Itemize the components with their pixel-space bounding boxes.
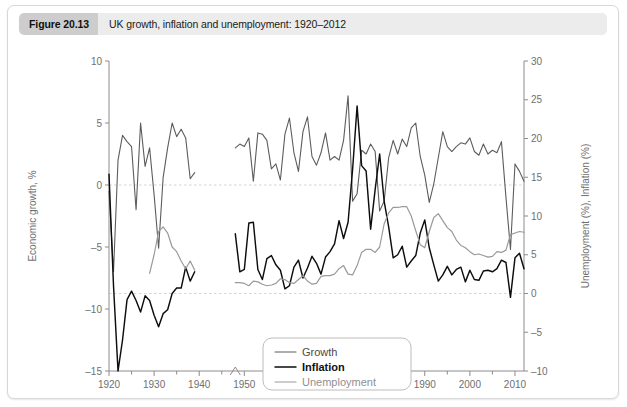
x-tick-label: 1940 (188, 379, 211, 390)
y-axis-title-right: Unemployment (%), Inflation (%) (580, 144, 591, 289)
legend-label-unemployment[interactable]: Unemployment (302, 376, 376, 388)
line-chart: –15–10–50510–10–505101520253019201930194… (8, 36, 620, 398)
x-tick-label: 2010 (504, 379, 527, 390)
x-tick-label: 1930 (143, 379, 166, 390)
y-axis-title-left: Economic growth, % (27, 170, 38, 261)
y-tick-label-right: 20 (531, 133, 543, 144)
y-tick-label-left: –5 (91, 242, 103, 253)
data-series (109, 96, 524, 371)
x-tick-label: 1920 (98, 379, 121, 390)
x-tick-label: 1950 (233, 379, 256, 390)
y-tick-label-left: 5 (96, 118, 102, 129)
figure-number-chip: Figure 20.13 (19, 13, 98, 35)
chart-region: –15–10–50510–10–505101520253019201930194… (8, 36, 620, 398)
gridlines (109, 185, 524, 294)
legend-label-growth[interactable]: Growth (302, 346, 337, 358)
y-tick-label-right: 25 (531, 94, 543, 105)
y-tick-label-right: 30 (531, 56, 543, 67)
y-tick-label-left: 0 (96, 180, 102, 191)
figure-caption: UK growth, inflation and unemployment: 1… (98, 18, 346, 30)
y-tick-label-left: –15 (85, 366, 102, 377)
x-tick-label: 2000 (459, 379, 482, 390)
y-tick-label-right: 0 (531, 288, 537, 299)
figure-title-bar: Figure 20.13 UK growth, inflation and un… (19, 13, 607, 35)
series-line-inflation (109, 106, 524, 371)
y-tick-label-left: 10 (91, 56, 103, 67)
axes (105, 61, 528, 376)
y-tick-label-right: 10 (531, 211, 543, 222)
legend-label-inflation[interactable]: Inflation (302, 361, 345, 373)
y-tick-label-right: 15 (531, 172, 543, 183)
figure-card: Figure 20.13 UK growth, inflation and un… (7, 5, 619, 399)
y-tick-label-left: –10 (85, 304, 102, 315)
x-tick-label: 1990 (414, 379, 437, 390)
y-tick-label-right: –5 (531, 327, 543, 338)
y-tick-label-right: –10 (531, 366, 548, 377)
chart-legend[interactable]: GrowthInflationUnemployment (263, 338, 411, 390)
y-tick-label-right: 5 (531, 249, 537, 260)
